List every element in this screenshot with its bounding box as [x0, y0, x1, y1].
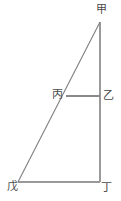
segment-wu-jia-hypotenuse [18, 22, 100, 182]
vertex-label-ding: 丁 [101, 182, 112, 193]
geometry-figure: 甲 乙 丙 戊 丁 [0, 0, 121, 201]
vertex-label-jia: 甲 [96, 4, 107, 15]
vertex-label-yi: 乙 [103, 90, 114, 101]
vertex-label-bing: 丙 [52, 89, 63, 100]
vertex-label-wu: 戊 [7, 181, 18, 192]
